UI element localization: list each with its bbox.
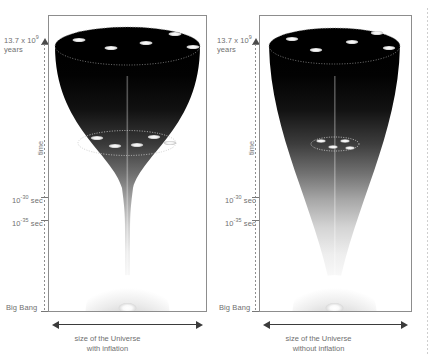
caption-line-2: without inflation	[293, 344, 345, 353]
central-light-shaft	[334, 76, 336, 291]
axis-label-time-1e-30: 10-30 sec	[12, 193, 43, 205]
galaxy-marker	[131, 143, 143, 147]
time-axis-line	[255, 44, 256, 312]
panel-without-inflation: 13.7 x 109 years 10-30 sec 10-35 sec Big…	[215, 0, 430, 362]
galaxy-marker	[286, 37, 298, 41]
galaxy-marker	[340, 139, 349, 142]
galaxy-marker	[187, 45, 200, 49]
size-arrow-head-right-icon	[401, 321, 408, 329]
caption-line-1: size of the Universe	[75, 334, 141, 343]
figure-canvas: 13.7 x 109 years 10-30 sec 10-35 sec Big…	[0, 0, 441, 362]
galaxy-marker	[383, 46, 395, 50]
size-arrow-head-left-icon	[52, 321, 59, 329]
size-arrow-line	[59, 324, 196, 325]
galaxy-marker	[164, 141, 176, 145]
galaxy-marker	[109, 144, 121, 148]
present-age-units: years	[217, 45, 236, 54]
time-axis-tick-1e-35	[252, 220, 259, 221]
caption-without-inflation: size of the Universe without inflation	[211, 334, 426, 354]
panel-with-inflation: 13.7 x 109 years 10-30 sec 10-35 sec Big…	[0, 0, 215, 362]
galaxy-marker	[169, 32, 182, 36]
universe-funnel-with-inflation	[49, 16, 206, 311]
axis-label-present-age: 13.7 x 109 years	[217, 33, 252, 54]
figure-divider	[427, 8, 428, 354]
time-axis-tick-present	[41, 44, 48, 45]
galaxy-marker	[310, 48, 322, 52]
present-age-exponent: 9	[36, 34, 39, 40]
time-axis-tick-1e-35	[41, 220, 48, 221]
galaxy-marker	[73, 38, 86, 42]
time-axis-tick-1e-30	[252, 197, 259, 198]
time-axis-line	[44, 44, 45, 312]
axis-label-time-1e-35: 10-35 sec	[12, 216, 43, 228]
caption-line-1: size of the Universe	[286, 334, 352, 343]
galaxy-marker	[148, 135, 160, 139]
axis-label-time-1e-30: 10-30 sec	[225, 193, 256, 205]
axis-label-time-1e-35: 10-35 sec	[225, 216, 256, 228]
universe-cone-without-inflation	[260, 16, 411, 311]
size-arrow-head-left-icon	[263, 321, 270, 329]
galaxy-marker	[346, 40, 358, 44]
plot-area-without-inflation	[259, 15, 412, 312]
caption-with-inflation: size of the Universe with inflation	[0, 334, 215, 354]
galaxy-marker	[140, 41, 153, 45]
caption-line-2: with inflation	[87, 344, 128, 353]
time-axis-tick-big-bang	[41, 311, 48, 312]
central-light-shaft	[127, 76, 129, 291]
present-age-value: 13.7 x 10	[4, 36, 36, 45]
axis-label-big-bang: Big Bang	[219, 303, 250, 312]
present-age-units: years	[4, 45, 23, 54]
galaxy-marker	[345, 146, 354, 149]
present-age-value: 13.7 x 10	[217, 36, 249, 45]
galaxy-marker	[328, 145, 337, 148]
time-axis-tick-1e-30	[41, 197, 48, 198]
plot-area-with-inflation	[48, 15, 207, 312]
size-arrow-head-right-icon	[196, 321, 203, 329]
galaxy-marker	[91, 136, 103, 140]
time-axis-tick-big-bang	[252, 311, 259, 312]
time-axis-tick-present	[252, 44, 259, 45]
galaxy-marker	[105, 46, 118, 50]
galaxy-marker	[316, 139, 325, 142]
galaxy-marker	[371, 31, 383, 35]
axis-label-present-age: 13.7 x 109 years	[4, 33, 39, 54]
axis-label-big-bang: Big Bang	[6, 303, 37, 312]
size-arrow-line	[270, 324, 401, 325]
